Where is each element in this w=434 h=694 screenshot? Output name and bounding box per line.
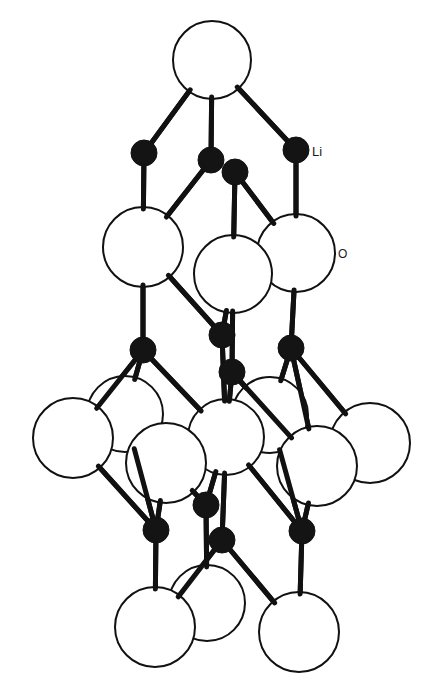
lithium-atom — [222, 159, 248, 185]
lithium-atom — [209, 322, 235, 348]
lithium-atom — [209, 527, 235, 553]
oxygen-label: O — [338, 247, 347, 261]
lithium-atom — [219, 359, 245, 385]
lithium-label: Li — [312, 144, 322, 159]
lithium-atom — [198, 147, 224, 173]
lithium-atom — [143, 517, 169, 543]
lithium-atom — [130, 337, 156, 363]
oxygen-atom — [259, 592, 339, 672]
oxygen-atom — [115, 587, 195, 667]
atom-layer — [33, 21, 410, 672]
lithium-atom — [193, 492, 219, 518]
li2o-crystal-diagram: Li O — [0, 0, 434, 694]
oxygen-atom — [194, 235, 272, 313]
lithium-atom — [278, 335, 304, 361]
lithium-atom — [289, 518, 315, 544]
lithium-atom — [131, 140, 157, 166]
lithium-atom — [283, 137, 309, 163]
